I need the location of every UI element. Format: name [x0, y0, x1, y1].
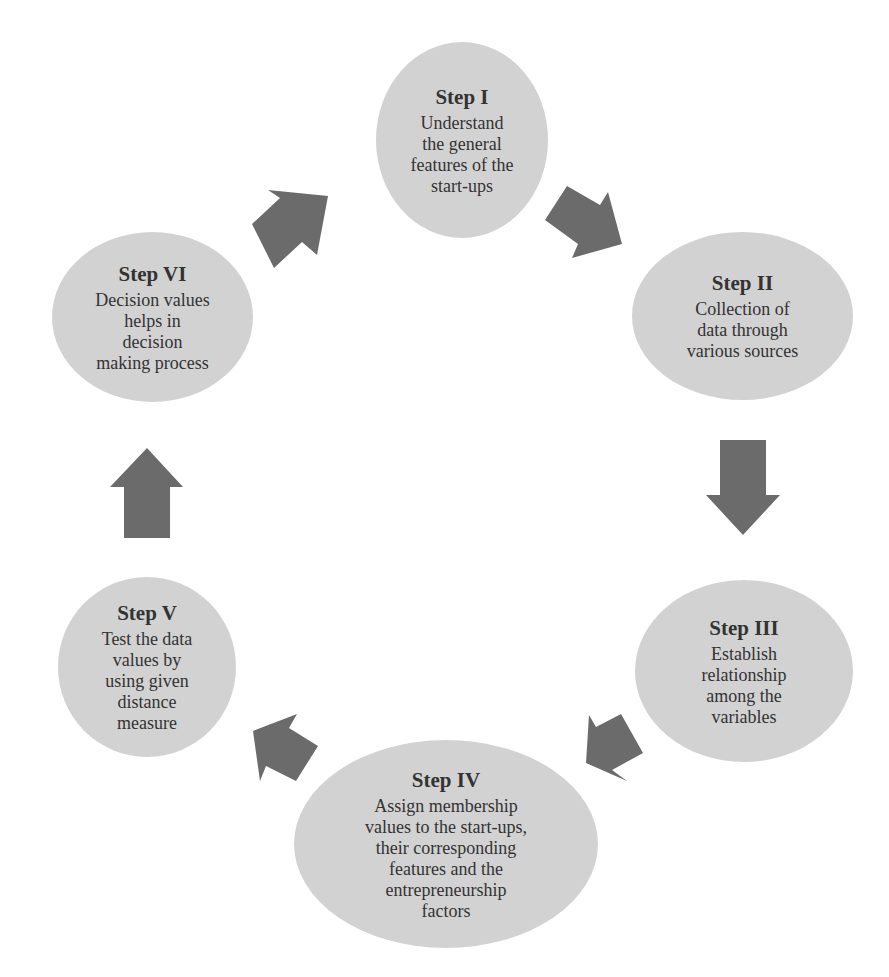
step-4-title: Step IV	[412, 767, 480, 793]
step-3-text: Establish relationship among the variabl…	[702, 644, 787, 728]
step-1-title: Step I	[435, 84, 488, 110]
step-5-node: Step V Test the data values by using giv…	[58, 577, 236, 757]
arrow-down-left-icon	[586, 714, 643, 781]
step-3-node: Step III Establish relationship among th…	[635, 580, 853, 762]
step-4-node: Step IV Assign membership values to the …	[294, 740, 598, 948]
step-5-title: Step V	[117, 600, 177, 626]
step-1-text: Understand the general features of the s…	[411, 113, 514, 197]
step-3-title: Step III	[709, 615, 778, 641]
step-2-node: Step II Collection of data through vario…	[632, 232, 853, 400]
step-4-text: Assign membership values to the start-up…	[365, 796, 527, 922]
step-2-title: Step II	[712, 270, 773, 296]
arrow-up-right-icon	[252, 190, 328, 268]
arrow-up-icon	[110, 448, 183, 538]
step-1-node: Step I Understand the general features o…	[376, 42, 548, 238]
step-2-text: Collection of data through various sourc…	[687, 299, 798, 362]
step-6-title: Step VI	[119, 261, 187, 287]
step-5-text: Test the data values by using given dist…	[102, 629, 193, 734]
arrow-down-icon	[706, 440, 780, 535]
arrow-down-right-icon	[545, 186, 622, 258]
arrow-up-left-icon	[253, 714, 318, 781]
step-6-text: Decision values helps in decision making…	[95, 290, 209, 374]
step-6-node: Step VI Decision values helps in decisio…	[52, 232, 253, 402]
